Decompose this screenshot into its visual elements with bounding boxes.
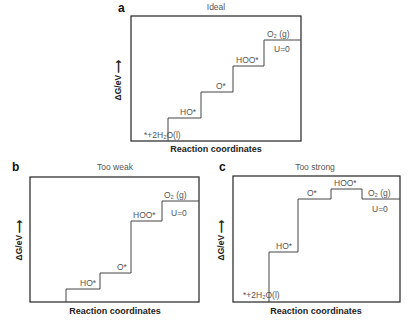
figure-canvas: a Ideal *+2H₂O(l) HO* O* HOO* O₂ (g) U=0… bbox=[0, 0, 409, 332]
x-axis-label: Reaction coordinates bbox=[170, 144, 262, 154]
label-hoo: HOO* bbox=[133, 210, 156, 220]
panel-title: Ideal bbox=[207, 2, 226, 12]
panel-title: Too weak bbox=[97, 162, 134, 172]
label-start: *+2H₂O(l) bbox=[144, 130, 181, 140]
label-start: *+2H₂O(l) bbox=[243, 290, 280, 300]
y-axis-label: ΔG/eV ⟶ bbox=[14, 220, 24, 261]
panel-letter: a bbox=[118, 1, 125, 15]
x-axis-label: Reaction coordinates bbox=[270, 306, 362, 316]
label-o2: O₂ (g) bbox=[368, 188, 391, 198]
panel-a: a Ideal *+2H₂O(l) HO* O* HOO* O₂ (g) U=0… bbox=[113, 1, 301, 154]
x-axis-label: Reaction coordinates bbox=[69, 306, 161, 316]
label-u: U=0 bbox=[171, 208, 187, 218]
label-o2: O₂ (g) bbox=[267, 29, 290, 39]
panel-letter: c bbox=[219, 160, 226, 174]
label-hoo: HOO* bbox=[334, 178, 357, 188]
panel-letter: b bbox=[12, 160, 19, 174]
label-ho: HO* bbox=[80, 278, 97, 288]
label-ho: HO* bbox=[276, 241, 293, 251]
y-axis-label: ΔG/eV ⟶ bbox=[113, 60, 123, 101]
label-o: O* bbox=[117, 262, 128, 272]
energy-steps bbox=[168, 40, 301, 141]
label-o: O* bbox=[216, 81, 227, 91]
y-axis-label: ΔG/eV ⟶ bbox=[216, 220, 226, 261]
panel-b: b Too weak HO* O* HOO* O₂ (g) U=0 Reacti… bbox=[12, 160, 199, 316]
label-u: U=0 bbox=[274, 44, 290, 54]
panel-title: Too strong bbox=[295, 162, 335, 172]
panel-c: c Too strong *+2H₂O(l) HO* O* HOO* O₂ (g… bbox=[216, 160, 400, 316]
label-o2: O₂ (g) bbox=[164, 190, 187, 200]
label-ho: HO* bbox=[180, 107, 197, 117]
label-o: O* bbox=[307, 188, 318, 198]
label-hoo: HOO* bbox=[236, 55, 259, 65]
label-u: U=0 bbox=[372, 204, 388, 214]
